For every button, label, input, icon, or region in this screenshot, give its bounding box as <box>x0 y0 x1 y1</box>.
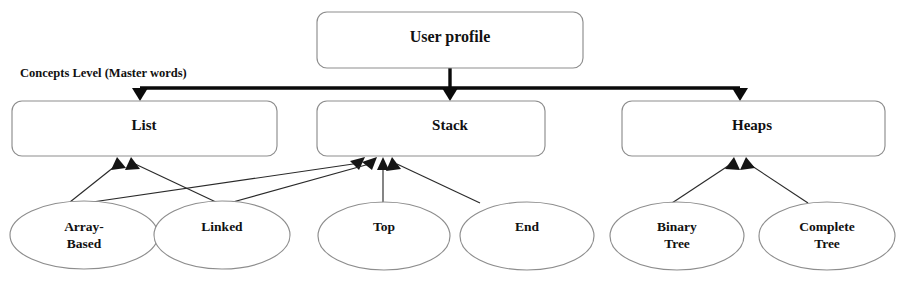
connector-linked-to-list <box>125 157 218 203</box>
list-label: List <box>131 117 156 133</box>
connector-array-based-to-list <box>70 157 126 202</box>
array-based-label-line2: Based <box>67 236 102 251</box>
stack-label: Stack <box>432 117 468 133</box>
binary-tree-label-line2: Tree <box>664 236 690 251</box>
connector-end-to-stack <box>386 157 480 203</box>
array-based-label-line1: Array- <box>64 219 104 234</box>
connector-top-to-stack <box>377 157 389 203</box>
node-binary-tree[interactable]: Binary Tree <box>610 202 744 270</box>
end-label-line1: End <box>515 219 540 234</box>
node-top[interactable]: Top <box>318 202 450 270</box>
arrowhead-bus-to-list <box>132 88 148 101</box>
linked-label-line1: Linked <box>201 219 243 234</box>
top-ellipse[interactable] <box>318 202 450 270</box>
top-label-line1: Top <box>373 219 395 234</box>
arrowhead-bus-to-heaps <box>732 88 748 101</box>
node-heaps[interactable]: Heaps <box>622 101 885 156</box>
node-stack[interactable]: Stack <box>317 101 545 156</box>
connector-binary-tree-to-heaps <box>672 157 740 203</box>
arrowhead-bus-to-stack <box>442 88 458 101</box>
node-list[interactable]: List <box>12 101 277 156</box>
diagram-canvas: User profile Concepts Level (Master word… <box>0 0 898 302</box>
end-ellipse[interactable] <box>460 202 594 270</box>
connector-complete-tree-to-heaps <box>740 157 808 203</box>
node-array-based[interactable]: Array- Based <box>10 201 158 269</box>
linked-ellipse[interactable] <box>154 201 290 269</box>
concepts-level-label: Concepts Level (Master words) <box>20 66 187 80</box>
complete-tree-label-line2: Tree <box>814 236 840 251</box>
node-end[interactable]: End <box>460 202 594 270</box>
array-based-ellipse[interactable] <box>10 201 158 269</box>
node-complete-tree[interactable]: Complete Tree <box>759 202 895 270</box>
heaps-label: Heaps <box>732 117 772 133</box>
connector-bus-horizontal <box>140 88 740 93</box>
node-linked[interactable]: Linked <box>154 201 290 269</box>
user-profile-label: User profile <box>410 28 491 46</box>
complete-tree-label-line1: Complete <box>799 219 854 234</box>
concept-hierarchy-diagram: User profile Concepts Level (Master word… <box>0 0 898 302</box>
binary-tree-label-line1: Binary <box>657 219 697 234</box>
stack-box[interactable] <box>317 101 545 156</box>
node-user-profile[interactable]: User profile <box>317 12 583 68</box>
